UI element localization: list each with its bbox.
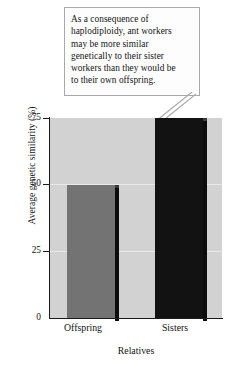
- y-tick-label-0: 0: [15, 313, 41, 322]
- y-axis-title: Average genetic similarity (%): [26, 76, 37, 256]
- figure: As a consequence of haplodiploidy, ant w…: [0, 0, 232, 365]
- y-tick-label-25: 25: [15, 246, 41, 255]
- x-tick-label-sisters: Sisters: [135, 322, 215, 333]
- bar-sisters-shadow-right: [203, 121, 207, 321]
- bar-offspring-shadow-right: [115, 188, 119, 321]
- x-axis-line: [49, 318, 223, 319]
- x-tick-label-offspring: Offspring: [43, 322, 123, 333]
- y-tick-label-25-wrap: 25: [8, 246, 41, 256]
- bar-sisters-face: [155, 118, 203, 318]
- y-axis-line: [49, 117, 50, 319]
- y-tick-label-50: 50: [15, 179, 41, 188]
- y-tick-label-75: 75: [15, 113, 41, 122]
- annotation-callout-text: As a consequence of haplodiploidy, ant w…: [71, 13, 194, 87]
- bar-offspring[interactable]: [67, 185, 115, 318]
- y-tick-mark-50: [43, 184, 50, 185]
- y-tick-mark-25: [43, 251, 50, 252]
- plot-area: [50, 118, 222, 318]
- y-tick-label-75-wrap: 75: [8, 113, 41, 123]
- x-axis-title: Relatives: [50, 345, 222, 356]
- annotation-callout-box: As a consequence of haplodiploidy, ant w…: [64, 7, 200, 96]
- bar-sisters[interactable]: [155, 118, 203, 318]
- y-tick-mark-75: [43, 118, 50, 119]
- bar-offspring-face: [67, 185, 115, 318]
- y-tick-label-0-wrap: 0: [8, 313, 41, 323]
- y-tick-label-50-wrap: 50: [8, 179, 41, 189]
